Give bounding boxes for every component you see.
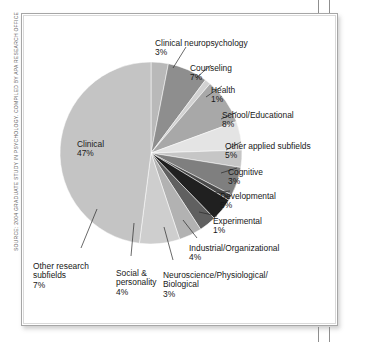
source-credit: SOURCE: 2004 GRADUATE STUDY IN PSYCHOLOG… [13,71,19,251]
slice-label-health-text: Health [211,85,235,95]
slice-label-other-applied-subfields-text: Other applied subfields [225,141,311,151]
slice-label-other-research-subfields: Other research subfields 7% [33,252,89,300]
slice-label-other-research-subfields-text: Other research subfields [33,261,89,281]
slice-label-clinical: Clinical 47% [77,130,104,168]
slice-label-clinical-neuropsychology-text: Clinical neuropsychology [155,38,248,48]
slice-label-social-personality: Social & personality 4% [116,259,157,307]
slice-label-counseling-text: Counseling [190,63,232,73]
slice-label-school-educational-text: School/Educational [222,110,294,120]
trim-mark-bottom-right [329,327,330,342]
slice-label-neuroscience-pct: 3% [163,290,268,300]
slice-label-cognitive-text: Cognitive [228,167,263,177]
slice-label-industrial-organizational-text: Industrial/Organizational [189,243,279,253]
page-root: SOURCE: 2004 GRADUATE STUDY IN PSYCHOLOG… [0,0,372,342]
pie-slice[interactable] [60,62,151,243]
pie-chart: Clinical 47% Clinical neuropsychology 3%… [21,13,338,326]
slice-label-other-research-subfields-pct: 7% [33,281,89,291]
slice-label-neuroscience-text: Neuroscience/Physiological/ Biological [163,270,268,290]
slice-label-clinical-pct: 47% [77,149,104,159]
slice-label-developmental-text: Developmental [220,191,276,201]
slice-label-clinical-text: Clinical [77,139,104,149]
trim-mark-bottom-left [318,327,319,342]
slice-label-school-educational-pct: 8% [222,120,294,130]
slice-label-social-personality-text: Social & personality [116,268,157,288]
slice-label-experimental-text: Experimental [213,216,262,226]
slice-label-social-personality-pct: 4% [116,288,157,298]
slice-label-neuroscience: Neuroscience/Physiological/ Biological 3… [163,261,268,309]
